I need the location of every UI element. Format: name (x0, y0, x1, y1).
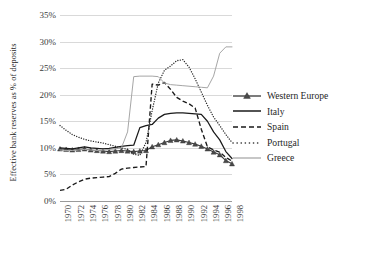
legend-swatch (232, 90, 262, 102)
series-line (60, 60, 232, 156)
series-line (60, 47, 232, 151)
x-tick-label: 1982 (137, 205, 147, 222)
legend-item[interactable]: Italy (232, 104, 368, 120)
y-tick-label: 0% (30, 196, 56, 206)
legend-item[interactable]: Western Europe (232, 88, 368, 104)
series-line (60, 82, 232, 190)
y-tick-label: 30% (30, 37, 56, 47)
legend-label: Italy (267, 107, 285, 117)
x-tick-label: 1984 (149, 205, 159, 222)
x-tick-label: 1980 (125, 205, 135, 222)
series-lines (60, 15, 232, 201)
x-tick-label: 1994 (211, 205, 221, 222)
legend-swatch (232, 121, 262, 133)
x-tick-label: 1998 (235, 205, 245, 222)
y-tick-label: 5% (30, 169, 56, 179)
plot-area: 0%5%10%15%20%25%30%35% 19701972197419761… (60, 15, 232, 201)
legend-label: Western Europe (267, 91, 328, 101)
legend-item[interactable]: Greece (232, 150, 368, 166)
legend-swatch (232, 105, 262, 117)
x-tick-label: 1978 (113, 205, 123, 222)
legend-item[interactable]: Spain (232, 119, 368, 135)
y-tick-label: 20% (30, 90, 56, 100)
y-tick-label: 35% (30, 10, 56, 20)
y-tick-label: 10% (30, 143, 56, 153)
y-axis-title: Effective bank reserves as % of deposits (9, 5, 18, 220)
x-tick-label: 1974 (88, 205, 98, 222)
series-marker (211, 150, 216, 155)
x-tick-label: 1988 (174, 205, 184, 222)
x-tick-label: 1990 (186, 205, 196, 222)
legend-swatch (232, 137, 262, 149)
legend-label: Greece (267, 153, 294, 163)
legend-label: Spain (267, 122, 289, 132)
x-tick-label: 1996 (223, 205, 233, 222)
y-tick-label: 15% (30, 116, 56, 126)
y-tick-label: 25% (30, 63, 56, 73)
chart-legend: Western EuropeItalySpainPortugalGreece (232, 88, 368, 166)
x-tick-label: 1992 (199, 205, 209, 222)
x-tick-label: 1972 (76, 205, 86, 222)
legend-label: Portugal (267, 138, 300, 148)
x-tick-label: 1970 (63, 205, 73, 222)
x-tick-label: 1976 (100, 205, 110, 222)
x-tick-label: 1986 (162, 205, 172, 222)
legend-swatch (232, 152, 262, 164)
x-axis-line (60, 201, 232, 202)
chart-figure: Effective bank reserves as % of deposits… (0, 0, 370, 259)
legend-item[interactable]: Portugal (232, 135, 368, 151)
